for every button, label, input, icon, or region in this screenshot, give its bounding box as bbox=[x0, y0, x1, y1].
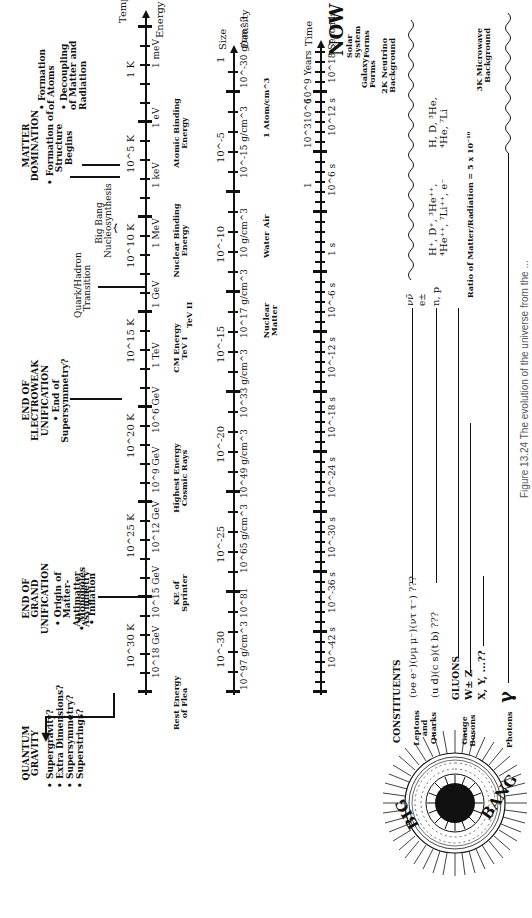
marker-water: Water bbox=[262, 232, 270, 258]
axis-tick bbox=[315, 372, 325, 374]
density-tick-1e17: 10^17 g/cm^3 bbox=[240, 269, 249, 338]
axis-tick bbox=[228, 172, 238, 174]
temp-tick-1e10: 10^10 K bbox=[126, 224, 137, 268]
axis-tick bbox=[315, 602, 325, 604]
temp-tick-1e30: 10^30 K bbox=[126, 624, 137, 668]
axis-tick bbox=[138, 500, 152, 503]
axis-tick bbox=[315, 112, 325, 114]
axis-tick bbox=[315, 642, 325, 644]
axis-tick bbox=[138, 310, 152, 313]
axis-tick bbox=[315, 342, 325, 344]
quantum-gravity-title: QUANTUM GRAVITY bbox=[22, 718, 41, 788]
axis-tick bbox=[313, 270, 327, 273]
axis-tick bbox=[315, 542, 325, 544]
quark-hadron-label: Quark/Hadron Transition bbox=[74, 258, 93, 318]
microwave-wavy-line bbox=[502, 13, 514, 153]
axis-tick bbox=[228, 412, 238, 414]
nucleosynthesis-label: Big Bang Nucleosynthesis bbox=[95, 188, 114, 258]
axis-tick bbox=[140, 84, 150, 86]
axis-tick bbox=[140, 654, 150, 656]
leptons-quarks-label: Leptons and Quarks bbox=[412, 703, 437, 753]
axis-tick bbox=[140, 578, 150, 580]
axis-tick bbox=[313, 210, 327, 213]
axis-tick bbox=[315, 172, 325, 174]
size-tick-1e-10: 10^-10 bbox=[216, 226, 227, 263]
time-tick-1e-6: 10^-6 s bbox=[328, 283, 337, 318]
axis-tick bbox=[228, 652, 238, 654]
gluons-line bbox=[458, 308, 459, 658]
axis-tick bbox=[228, 432, 238, 434]
axis-tick bbox=[228, 112, 238, 114]
axis-tick bbox=[313, 630, 327, 633]
marker-solar-system-forms: Solar System Forms bbox=[345, 20, 370, 58]
axis-tick bbox=[315, 142, 325, 144]
density-tick-1e81: 10^81 bbox=[240, 588, 249, 618]
density-tick-1e97: 10^97 g/cm^3 bbox=[240, 621, 249, 690]
atoms-species: H, D, ³He, ⁴He, ⁷Li bbox=[428, 78, 449, 148]
axis-tick bbox=[315, 362, 325, 364]
axis-tick bbox=[315, 322, 325, 324]
leptons-line bbox=[412, 308, 413, 583]
axis-tick bbox=[140, 236, 150, 238]
axis-tick bbox=[228, 672, 238, 674]
energy-tick-1e18gev: 10^18 GeV bbox=[152, 626, 161, 678]
axis-tick bbox=[228, 352, 238, 354]
axis-tick bbox=[315, 672, 325, 674]
axis-tick bbox=[140, 179, 150, 181]
axis-tick bbox=[315, 52, 325, 54]
atoms-item-2: • Decoupling of Matter and Radiation bbox=[60, 40, 88, 110]
axis-tick bbox=[140, 559, 150, 561]
axis-tick bbox=[315, 262, 325, 264]
axis-tick bbox=[315, 382, 325, 384]
years-tick-1e9: 10^9 Years bbox=[304, 51, 313, 103]
quarks-line bbox=[436, 308, 437, 583]
axis-tick bbox=[228, 472, 238, 474]
matter-domination-title: MATTER DOMINATION bbox=[22, 108, 41, 183]
axis-tick bbox=[313, 450, 327, 453]
energy-tick-1e12gev: 10^12 GeV bbox=[152, 501, 161, 553]
plasma-nuclei: H⁺, D⁺, ³He⁺⁺, ⁴He⁺⁺, ⁷Li⁺⁺, e⁻ bbox=[428, 156, 449, 256]
axis-tick bbox=[315, 442, 325, 444]
axis-tick bbox=[226, 690, 240, 693]
time-tick-1e-18: 10^-18 s bbox=[328, 397, 337, 438]
axis-tick bbox=[315, 222, 325, 224]
axis-tick bbox=[315, 462, 325, 464]
axis-tick bbox=[228, 152, 238, 154]
axis-tick bbox=[140, 616, 150, 618]
temp-tick-1e25: 10^25 K bbox=[126, 514, 137, 558]
axis-tick bbox=[313, 510, 327, 513]
axis-tick bbox=[315, 652, 325, 654]
axis-tick bbox=[315, 472, 325, 474]
energy-axis-title: Energy bbox=[155, 2, 166, 39]
axis-tick bbox=[315, 352, 325, 354]
photons-label: Photons bbox=[505, 711, 513, 748]
temperature-axis-arrow-icon bbox=[142, 10, 150, 18]
energy-tick-1mev-milli: 1 meV bbox=[152, 39, 161, 68]
axis-tick bbox=[226, 90, 240, 93]
axis-tick bbox=[140, 65, 150, 67]
axis-tick bbox=[315, 72, 325, 74]
axis-tick bbox=[315, 582, 325, 584]
qg-arrow-icon: ◀ bbox=[39, 733, 52, 742]
temp-tick-1e15: 10^15 K bbox=[126, 319, 137, 363]
qg-bracket-vertical bbox=[45, 716, 115, 718]
figure-caption: Figure 13.24 The evolution of the univer… bbox=[520, 260, 531, 498]
axis-tick bbox=[138, 690, 152, 693]
quarks-row: (u d)(c s)(t b) ??? bbox=[430, 612, 441, 698]
energy-tick-1e9gev: 10^9 GeV bbox=[152, 446, 161, 493]
photon-symbol: γ bbox=[497, 691, 516, 703]
atoms-arrow-line bbox=[82, 164, 120, 166]
years-tick-1: 1 bbox=[304, 182, 313, 188]
axis-tick bbox=[315, 102, 325, 104]
marker-nuclear-matter: Nuclear Matter bbox=[262, 298, 279, 343]
axis-tick bbox=[315, 132, 325, 134]
axis-tick bbox=[315, 492, 325, 494]
axis-tick bbox=[313, 690, 327, 693]
axis-tick bbox=[315, 422, 325, 424]
axis-tick bbox=[315, 502, 325, 504]
xy-label: X, Y, ...?? bbox=[477, 650, 488, 700]
microwave-background-label: 3K Microwave Background bbox=[475, 28, 492, 128]
time-tick-1e-30: 10^-30 s bbox=[328, 517, 337, 558]
size-tick-1e-30: 10^-30 bbox=[216, 631, 227, 668]
energy-tick-1mev: 1 MeV bbox=[152, 218, 161, 248]
